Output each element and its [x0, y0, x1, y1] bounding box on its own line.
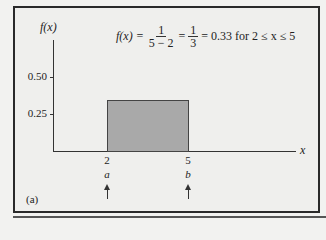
- y-tick-025: [50, 114, 54, 115]
- x-axis-label: x: [300, 143, 305, 158]
- y-tick-label-050: 0.50: [7, 70, 47, 82]
- fraction-2: 1 3: [188, 24, 198, 49]
- panel-label: (a): [26, 193, 38, 205]
- formula-annotation: f(x) = 1 5 − 2 = 1 3 = 0.33 for 2 ≤ x ≤ …: [116, 24, 295, 49]
- fraction-2-denominator: 3: [188, 37, 198, 49]
- x-tick-label-5: 5: [178, 154, 198, 166]
- arrow-shaft-a: [107, 189, 108, 199]
- fraction-1: 1 5 − 2: [147, 24, 176, 49]
- formula-equals: =: [179, 29, 186, 44]
- page-rule: [13, 216, 326, 218]
- formula-rhs: = 0.33 for 2 ≤ x ≤ 5: [201, 29, 295, 44]
- uniform-density-rect: [107, 100, 189, 152]
- formula-lhs: f(x) =: [116, 29, 144, 44]
- y-axis: [53, 40, 54, 152]
- y-tick-label-025: 0.25: [7, 107, 47, 119]
- point-label-b: b: [178, 168, 198, 180]
- y-tick-050: [50, 77, 54, 78]
- point-label-a: a: [97, 168, 117, 180]
- y-axis-label: f(x): [40, 20, 57, 35]
- fraction-1-denominator: 5 − 2: [147, 37, 176, 49]
- x-tick-label-2: 2: [97, 154, 117, 166]
- arrow-shaft-b: [188, 189, 189, 199]
